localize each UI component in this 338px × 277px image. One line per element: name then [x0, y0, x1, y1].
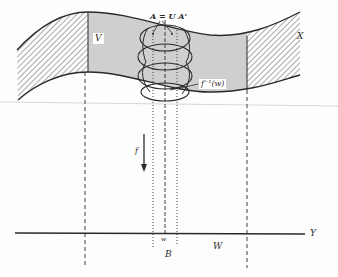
label-w: w — [161, 236, 166, 242]
label-W: W — [213, 242, 222, 251]
label-Y: Y — [310, 229, 316, 238]
map-f-arrowhead — [141, 164, 147, 172]
hatched-left — [0, 0, 88, 110]
label-X: X — [297, 32, 303, 41]
diagram-svg — [0, 0, 338, 277]
label-f: f — [135, 147, 138, 155]
label-V: V — [93, 33, 104, 44]
label-preimage: f⁻¹(w) — [199, 79, 226, 89]
label-B: B — [165, 250, 172, 259]
faint-rule — [0, 102, 338, 106]
diagram-canvas: V X A = U A' f⁻¹(w) f w B W Y — [0, 0, 338, 277]
hatched-right — [247, 0, 307, 110]
label-A-union: A = U A' — [150, 12, 187, 20]
base-Y-line — [15, 233, 305, 234]
